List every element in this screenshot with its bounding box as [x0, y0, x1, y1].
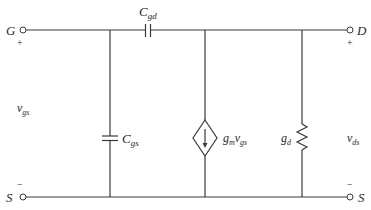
gate-plus-sign: + — [17, 37, 23, 48]
terminal-source-right — [347, 194, 353, 200]
circuit-diagram: G + D + S − S − Cgd Cgs gmvgs gd vgs vds — [0, 0, 371, 210]
capacitor-cgd — [146, 24, 151, 37]
capacitor-cgs — [102, 30, 118, 197]
terminal-drain — [347, 27, 353, 33]
resistor-gd — [297, 30, 307, 197]
cgd-label: Cgd — [139, 4, 157, 21]
source-left-label: S — [6, 190, 13, 205]
gm-vgs-label: gmvgs — [223, 131, 247, 147]
drain-label: D — [356, 23, 367, 38]
terminal-gate — [20, 27, 26, 33]
source-left-minus-sign: − — [17, 179, 23, 190]
dependent-current-source — [193, 30, 217, 197]
cgs-label: Cgs — [122, 131, 139, 148]
gd-label: gd — [281, 131, 292, 147]
terminal-source-left — [20, 194, 26, 200]
source-right-label: S — [358, 190, 365, 205]
vds-label: vds — [347, 131, 359, 147]
drain-plus-sign: + — [347, 37, 353, 48]
vgs-label: vgs — [17, 101, 29, 117]
source-right-minus-sign: − — [347, 179, 353, 190]
gate-label: G — [6, 23, 16, 38]
